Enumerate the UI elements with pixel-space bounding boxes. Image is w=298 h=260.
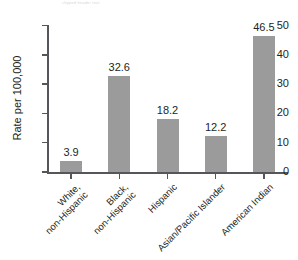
y-tick-mark bbox=[42, 171, 47, 173]
bar bbox=[157, 119, 179, 172]
y-tick-mark bbox=[42, 83, 47, 85]
y-tick-mark bbox=[42, 142, 47, 144]
x-tick-mark bbox=[215, 173, 217, 179]
bar bbox=[60, 161, 82, 172]
bar-value-label: 32.6 bbox=[94, 62, 144, 73]
y-tick-mark bbox=[42, 25, 47, 27]
bar bbox=[205, 136, 227, 172]
bar-value-label: 12.2 bbox=[191, 122, 241, 133]
bar-value-label: 46.5 bbox=[239, 22, 289, 33]
plot-area: Rate per 100,000 01020304050 3.932.618.2… bbox=[0, 0, 298, 260]
x-category-label: American Indian bbox=[189, 182, 276, 260]
bar-value-label: 3.9 bbox=[46, 147, 96, 158]
bar-chart-figure: clipped header text Rate per 100,000 010… bbox=[0, 0, 298, 260]
y-tick-mark bbox=[42, 113, 47, 115]
x-tick-mark bbox=[70, 173, 72, 179]
bar bbox=[108, 76, 130, 172]
bar bbox=[253, 36, 275, 172]
bar-value-label: 18.2 bbox=[143, 105, 193, 116]
x-tick-mark bbox=[167, 173, 169, 179]
y-axis-title: Rate per 100,000 bbox=[11, 23, 23, 173]
y-tick-mark bbox=[42, 54, 47, 56]
x-tick-mark bbox=[119, 173, 121, 179]
x-tick-mark bbox=[263, 173, 265, 179]
